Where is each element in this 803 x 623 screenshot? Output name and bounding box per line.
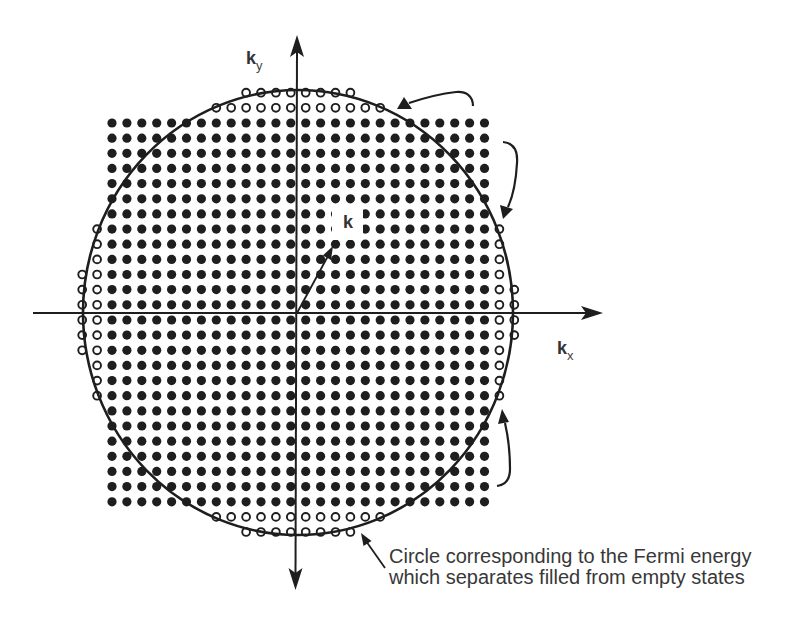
filled-state-dot [286,134,295,143]
filled-state-dot [122,376,131,385]
filled-state-dot [450,209,459,218]
filled-state-dot [242,331,251,340]
filled-state-dot [137,437,146,446]
filled-state-dot [316,346,325,355]
filled-state-dot [137,452,146,461]
filled-state-dot [227,270,236,279]
filled-state-dot [212,118,221,127]
filled-state-dot [391,497,400,506]
fermi-circle-diagram: ky kx k Circle corresponding to the Ferm… [0,0,803,623]
filled-state-dot [391,255,400,264]
filled-state-dot [256,406,265,415]
filled-state-dot [286,179,295,188]
filled-state-dot [420,270,429,279]
filled-state-dot [256,118,265,127]
filled-state-dot [316,331,325,340]
filled-state-dot [465,315,474,324]
filled-state-dot [107,285,116,294]
filled-state-dot [435,118,444,127]
filled-state-dot [182,315,191,324]
filled-state-dot [122,209,131,218]
filled-state-dot [286,164,295,173]
filled-state-dot [107,391,116,400]
background [0,0,803,623]
filled-state-dot [271,134,280,143]
filled-state-dot [286,346,295,355]
filled-state-dot [286,225,295,234]
filled-state-dot [242,270,251,279]
filled-state-dot [331,391,340,400]
filled-state-dot [182,240,191,249]
filled-state-dot [242,406,251,415]
filled-state-dot [197,149,206,158]
filled-state-dot [167,149,176,158]
filled-state-dot [420,376,429,385]
filled-state-dot [182,194,191,203]
filled-state-dot [122,255,131,264]
filled-state-dot [391,482,400,491]
filled-state-dot [301,391,310,400]
filled-state-dot [227,134,236,143]
filled-state-dot [301,482,310,491]
filled-state-dot [480,482,489,491]
filled-state-dot [256,437,265,446]
filled-state-dot [376,346,385,355]
filled-state-dot [107,240,116,249]
filled-state-dot [361,118,370,127]
filled-state-dot [450,194,459,203]
empty-state-dot [496,286,504,294]
filled-state-dot [420,164,429,173]
filled-state-dot [152,315,161,324]
empty-state-dot [242,513,250,521]
filled-state-dot [271,437,280,446]
filled-state-dot [242,300,251,309]
empty-state-dot [496,362,504,370]
filled-state-dot [227,315,236,324]
filled-state-dot [152,240,161,249]
filled-state-dot [197,164,206,173]
filled-state-dot [197,421,206,430]
filled-state-dot [480,437,489,446]
filled-state-dot [480,361,489,370]
filled-state-dot [137,270,146,279]
filled-state-dot [361,194,370,203]
filled-state-dot [271,300,280,309]
filled-state-dot [435,194,444,203]
filled-state-dot [242,482,251,491]
filled-state-dot [227,437,236,446]
filled-state-dot [152,391,161,400]
filled-state-dot [107,376,116,385]
filled-state-dot [256,497,265,506]
filled-state-dot [212,209,221,218]
filled-state-dot [361,300,370,309]
filled-state-dot [420,149,429,158]
filled-state-dot [301,164,310,173]
filled-state-dot [316,376,325,385]
filled-state-dot [376,482,385,491]
filled-state-dot [391,225,400,234]
filled-state-dot [137,225,146,234]
filled-state-dot [227,285,236,294]
filled-state-dot [376,361,385,370]
filled-state-dot [197,361,206,370]
filled-state-dot [331,376,340,385]
filled-state-dot [450,270,459,279]
filled-state-dot [450,376,459,385]
filled-state-dot [152,361,161,370]
filled-state-dot [212,225,221,234]
filled-state-dot [331,452,340,461]
filled-state-dot [435,225,444,234]
filled-state-dot [286,497,295,506]
filled-state-dot [405,134,414,143]
filled-state-dot [152,194,161,203]
filled-state-dot [450,315,459,324]
filled-state-dot [465,331,474,340]
filled-state-dot [242,179,251,188]
filled-state-dot [167,361,176,370]
filled-state-dot [152,406,161,415]
filled-state-dot [227,225,236,234]
filled-state-dot [435,406,444,415]
filled-state-dot [361,482,370,491]
filled-state-dot [256,391,265,400]
filled-state-dot [122,270,131,279]
